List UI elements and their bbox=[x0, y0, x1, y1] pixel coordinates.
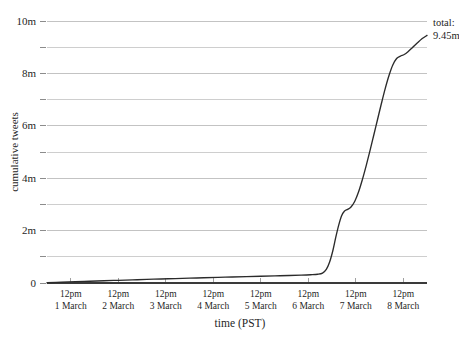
x-tick-time-5: 12pm bbox=[297, 289, 319, 299]
annotation-total-value-0: 9.45m bbox=[433, 30, 459, 41]
x-tick-time-2: 12pm bbox=[155, 289, 177, 299]
y-tick-label-6: 4m bbox=[22, 172, 37, 184]
annotation-total-label-0: total: bbox=[433, 17, 455, 28]
x-tick-time-3: 12pm bbox=[202, 289, 224, 299]
x-tick-time-0: 12pm bbox=[60, 289, 82, 299]
chart-container: 10m8m6m4m2m0 12pm1 March12pm2 March12pm3… bbox=[0, 0, 459, 340]
x-tick-time-1: 12pm bbox=[107, 289, 129, 299]
gridlines-group bbox=[47, 21, 427, 257]
y-tick-label-10: 0 bbox=[31, 277, 37, 289]
x-axis-title: time (PST) bbox=[215, 317, 266, 330]
x-tick-date-2: 3 March bbox=[150, 301, 182, 311]
annotations-group: total:9.45m bbox=[433, 17, 459, 41]
x-tick-date-5: 6 March bbox=[292, 301, 324, 311]
y-axis-ticks-group bbox=[40, 21, 46, 283]
series-line-0 bbox=[47, 35, 427, 282]
cumulative-tweets-line-chart: 10m8m6m4m2m0 12pm1 March12pm2 March12pm3… bbox=[0, 0, 459, 340]
y-tick-label-8: 2m bbox=[22, 224, 37, 236]
x-tick-date-0: 1 March bbox=[55, 301, 87, 311]
x-tick-date-7: 8 March bbox=[387, 301, 419, 311]
x-tick-time-4: 12pm bbox=[250, 289, 272, 299]
y-tick-label-0: 10m bbox=[16, 15, 36, 27]
x-tick-time-6: 12pm bbox=[345, 289, 367, 299]
y-tick-label-2: 8m bbox=[22, 67, 37, 79]
x-tick-date-6: 7 March bbox=[340, 301, 372, 311]
x-tick-date-1: 2 March bbox=[102, 301, 134, 311]
y-tick-label-4: 6m bbox=[22, 119, 37, 131]
x-tick-time-7: 12pm bbox=[392, 289, 414, 299]
series-group bbox=[47, 35, 427, 282]
x-tick-date-3: 4 March bbox=[197, 301, 229, 311]
x-tick-date-4: 5 March bbox=[245, 301, 277, 311]
y-axis-title: cumulative tweets bbox=[8, 112, 20, 192]
x-axis-tick-labels-group: 12pm1 March12pm2 March12pm3 March12pm4 M… bbox=[55, 289, 420, 311]
